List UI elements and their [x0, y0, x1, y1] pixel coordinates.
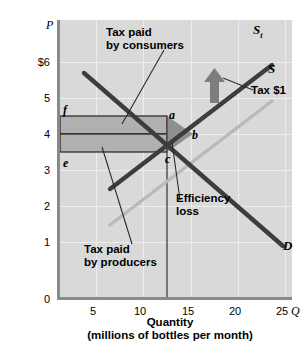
- point-label-a: a: [169, 108, 175, 123]
- supply-demand-tax-chart: $6 5 4 3 2 1 0 P 5 10 15 20 25 Q Price (…: [0, 0, 305, 355]
- point-label-e: e: [63, 156, 68, 171]
- x-axis-title-sub: (millions of bottles per month): [87, 329, 252, 341]
- curve-label-demand: D: [283, 238, 292, 254]
- xtick-20: 20: [222, 306, 248, 316]
- x-axis-title-main: Quantity: [147, 316, 194, 328]
- tax-consumers-line1: Tax paid: [106, 26, 152, 38]
- ytick-3: 3: [24, 165, 50, 175]
- curve-label-S-t-sub: t: [260, 31, 262, 40]
- xtick-15: 15: [175, 306, 201, 316]
- curve-label-supply-pretax: S: [268, 61, 275, 77]
- tax-producers-line1: Tax paid: [84, 243, 130, 255]
- ytick-0: 0: [24, 294, 50, 304]
- tax-consumers-line2: by consumers: [106, 39, 184, 51]
- tax-producers-line2: by producers: [84, 256, 157, 268]
- ytick-4: 4: [24, 129, 50, 139]
- point-label-f: f: [63, 103, 67, 118]
- xtick-10: 10: [127, 306, 153, 316]
- tax-arrow-icon: [204, 68, 225, 103]
- leader-line-tax-producers: [102, 147, 132, 244]
- ytick-6: $6: [24, 57, 50, 67]
- ytick-2: 2: [24, 201, 50, 211]
- point-label-b: b: [192, 128, 198, 143]
- annotation-tax-paid-by-consumers: Tax paid by consumers: [106, 26, 202, 52]
- x-axis-title: Quantity (millions of bottles per month): [40, 316, 300, 342]
- efficiency-loss-line2: loss: [176, 205, 199, 217]
- ytick-5: 5: [24, 93, 50, 103]
- annotation-efficiency-loss: Efficiency loss: [176, 192, 266, 218]
- leader-line-tax-consumers: [122, 50, 164, 124]
- point-label-c: c: [165, 152, 170, 167]
- annotation-tax-amount: Tax $1: [251, 84, 305, 97]
- efficiency-loss-line1: Efficiency: [176, 192, 230, 204]
- curve-label-supply-after-tax: St: [253, 22, 262, 40]
- ytick-1: 1: [24, 237, 50, 247]
- y-axis-symbol: P: [46, 18, 53, 33]
- annotation-tax-paid-by-producers: Tax paid by producers: [84, 243, 194, 269]
- region-tax-paid-by-producers: [60, 134, 167, 152]
- xtick-5: 5: [80, 306, 106, 316]
